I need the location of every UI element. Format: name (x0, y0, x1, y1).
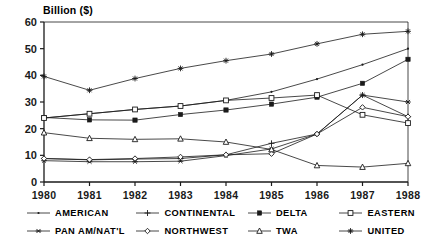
legend-item-continental[interactable]: CONTINENTAL (135, 205, 246, 221)
svg-text:1985: 1985 (259, 189, 284, 201)
svg-text:1981: 1981 (77, 189, 102, 201)
legend-row: AMERICANCONTINENTALDELTAEASTERN (26, 205, 418, 221)
y-tick-labels: 0102030405060 (25, 16, 37, 188)
star-marker-icon (338, 225, 363, 237)
plus-marker-icon (135, 207, 160, 219)
svg-text:60: 60 (25, 16, 37, 28)
legend-label: NORTHWEST (160, 226, 228, 236)
legend-row: PAN AM/NAT'LNORTHWESTTWAUNITED (26, 223, 418, 239)
svg-text:20: 20 (25, 123, 37, 135)
filled-square-marker-icon (247, 207, 272, 219)
legend-label: PAN AM/NAT'L (51, 226, 125, 236)
legend-item-northwest[interactable]: NORTHWEST (135, 223, 246, 239)
svg-text:1988: 1988 (396, 189, 421, 201)
legend-label: CONTINENTAL (160, 208, 235, 218)
legend-label: AMERICAN (51, 208, 109, 218)
svg-text:1980: 1980 (32, 189, 57, 201)
series-twa (41, 130, 411, 170)
svg-text:1983: 1983 (168, 189, 193, 201)
legend-label: TWA (272, 226, 298, 236)
open-diamond-marker-icon (135, 225, 160, 237)
plot-area: 0102030405060 19801981198219831984198519… (0, 0, 425, 205)
legend-item-delta[interactable]: DELTA (247, 205, 339, 221)
asterisk-marker-icon (26, 225, 51, 237)
x-tick-labels: 198019811982198319841985198619871988 (32, 189, 421, 201)
legend-item-american[interactable]: AMERICAN (26, 205, 135, 221)
svg-text:40: 40 (25, 69, 37, 81)
legend-label: DELTA (272, 208, 308, 218)
line-chart: Billion ($) 0102030405060 19801981198219… (0, 0, 425, 251)
svg-text:0: 0 (31, 176, 37, 188)
dot-marker-icon (26, 207, 51, 219)
svg-text:50: 50 (25, 43, 37, 55)
legend-label: UNITED (363, 226, 404, 236)
series-united (41, 28, 411, 93)
legend-item-eastern[interactable]: EASTERN (338, 205, 418, 221)
legend-item-twa[interactable]: TWA (247, 223, 339, 239)
series-layer (41, 28, 411, 169)
svg-text:10: 10 (25, 149, 37, 161)
open-square-marker-icon (338, 207, 363, 219)
svg-text:1987: 1987 (350, 189, 375, 201)
svg-text:30: 30 (25, 96, 37, 108)
svg-text:1986: 1986 (305, 189, 330, 201)
open-triangle-marker-icon (247, 225, 272, 237)
legend-item-united[interactable]: UNITED (338, 223, 418, 239)
svg-text:1982: 1982 (123, 189, 148, 201)
legend-label: EASTERN (363, 208, 415, 218)
legend-item-pan-am-nat-l[interactable]: PAN AM/NAT'L (26, 223, 135, 239)
chart-legend: AMERICANCONTINENTALDELTAEASTERNPAN AM/NA… (26, 205, 418, 247)
svg-text:1984: 1984 (214, 189, 239, 201)
